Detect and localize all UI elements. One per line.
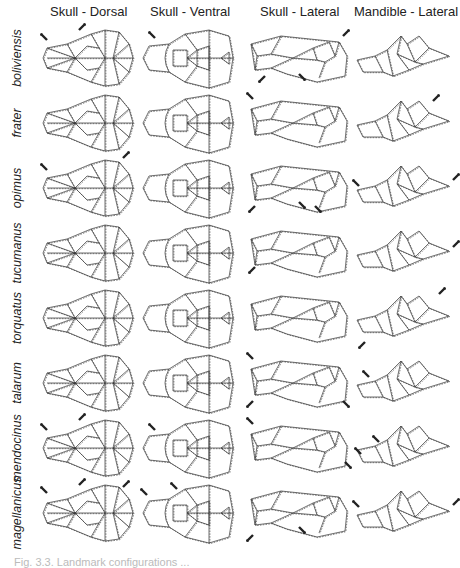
landmark-plot-mandible (350, 91, 460, 155)
consensus-wireframe (251, 491, 339, 533)
landmark-plot-mandible (350, 416, 460, 480)
column-header-skull-dorsal: Skull - Dorsal (50, 4, 127, 19)
species-wireframe (48, 31, 134, 87)
consensus-wireframe (47, 95, 133, 151)
arrow-icon (40, 423, 47, 430)
species-label: torquatus (4, 286, 30, 350)
species-wireframe (252, 167, 348, 213)
landmark-plot-lateral (244, 416, 354, 480)
landmark-plot-lateral (244, 481, 354, 545)
species-label: talarum (4, 351, 30, 415)
species-name: mendocinus (10, 414, 24, 481)
landmark-plot-mandible (350, 221, 460, 285)
species-name: talarum (10, 362, 24, 404)
arrow-icon (258, 76, 265, 83)
landmark-plot-lateral (244, 26, 354, 90)
arrow-icon (140, 488, 147, 495)
species-label: frater (4, 91, 30, 155)
consensus-wireframe (47, 290, 133, 346)
consensus-wireframe (251, 166, 339, 208)
consensus-wireframe (375, 166, 429, 206)
consensus-wireframe (251, 101, 339, 143)
arrow-icon (248, 206, 255, 213)
consensus-wireframe (357, 231, 449, 271)
consensus-wireframe (357, 426, 449, 466)
arrow-icon (246, 401, 253, 408)
column-header-skull-lateral: Skull - Lateral (260, 4, 339, 19)
landmark-plot-dorsal (36, 351, 146, 415)
consensus-wireframe (375, 426, 429, 466)
landmark-plot-ventral (136, 221, 246, 285)
arrow-icon (343, 29, 350, 36)
arrow-icon (343, 401, 350, 408)
landmark-plot-ventral (136, 286, 246, 350)
consensus-wireframe (47, 225, 133, 281)
landmark-plot-lateral (244, 286, 354, 350)
consensus-wireframe (375, 361, 429, 401)
landmark-plot-ventral (136, 481, 246, 545)
arrow-icon (79, 23, 86, 30)
species-wireframe (252, 232, 348, 278)
arrow-icon (352, 179, 359, 186)
landmark-plot-lateral (244, 91, 354, 155)
arrow-icon (40, 33, 47, 40)
consensus-wireframe (251, 296, 339, 338)
species-name: torquatus (10, 292, 24, 344)
figure-caption: Fig. 3.3. Landmark configurations ... (14, 556, 189, 568)
species-wireframe (252, 427, 348, 473)
landmark-plot-lateral (244, 351, 354, 415)
consensus-wireframe (251, 361, 339, 403)
species-label: magellanicus (4, 481, 30, 545)
landmark-plot-dorsal (36, 156, 146, 220)
consensus-wireframe (47, 420, 133, 476)
species-wireframe (48, 226, 134, 282)
arrow-icon (362, 370, 369, 377)
landmark-plot-ventral (136, 156, 246, 220)
arrow-icon (123, 480, 130, 487)
consensus-wireframe (251, 426, 339, 468)
species-wireframe (252, 492, 348, 538)
landmark-plot-ventral (136, 26, 246, 90)
species-name: frater (10, 108, 24, 137)
species-wireframe (48, 96, 134, 152)
species-label: mendocinus (4, 416, 30, 480)
consensus-wireframe (47, 30, 133, 86)
consensus-wireframe (47, 355, 133, 411)
arrow-icon (354, 447, 361, 454)
arrow-icon (439, 287, 446, 294)
landmark-plot-mandible (350, 26, 460, 90)
consensus-wireframe (375, 101, 429, 141)
species-label: tucumanus (4, 221, 30, 285)
arrow-icon (40, 486, 47, 493)
landmark-plot-dorsal (36, 221, 146, 285)
landmark-plot-dorsal (36, 91, 146, 155)
arrow-icon (40, 163, 47, 170)
landmark-plot-ventral (136, 351, 246, 415)
landmark-plot-dorsal (36, 481, 146, 545)
species-name: magellanicus (10, 477, 24, 550)
consensus-wireframe (357, 296, 449, 336)
consensus-wireframe (47, 485, 133, 541)
landmark-plot-dorsal (36, 26, 146, 90)
arrow-icon (248, 267, 255, 274)
column-header-skull-ventral: Skull - Ventral (150, 4, 230, 19)
species-label: opimus (4, 156, 30, 220)
consensus-wireframe (47, 160, 133, 216)
arrow-icon (453, 498, 460, 505)
landmark-plot-ventral (136, 91, 246, 155)
landmark-plot-mandible (350, 481, 460, 545)
arrow-icon (246, 535, 253, 542)
arrow-icon (246, 417, 253, 424)
species-label: boliviensis (4, 26, 30, 90)
consensus-wireframe (375, 491, 429, 531)
consensus-wireframe (357, 36, 449, 76)
consensus-wireframe (357, 101, 449, 141)
landmark-plot-mandible (350, 286, 460, 350)
arrow-icon (246, 92, 253, 99)
consensus-wireframe (357, 491, 449, 531)
species-wireframe (48, 291, 134, 347)
consensus-wireframe (357, 166, 449, 206)
arrow-icon (453, 173, 460, 180)
landmark-plot-dorsal (36, 286, 146, 350)
species-wireframe (252, 102, 348, 148)
